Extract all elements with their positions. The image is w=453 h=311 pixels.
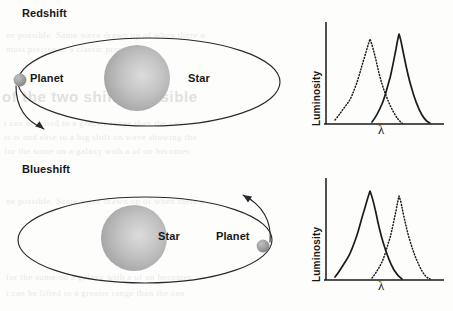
spectrum-curve-dotted (372, 196, 430, 279)
x-axis-label: λ (378, 122, 384, 138)
spectrum-curve-dotted (335, 39, 402, 123)
blueshift-orbit-svg (0, 178, 295, 303)
spectrum-curve-solid (335, 191, 402, 279)
star-body (104, 45, 170, 111)
redshift-orbit-diagram: Planet Star (0, 22, 295, 147)
planet-label: Planet (216, 230, 250, 242)
planet-body (257, 240, 270, 253)
blueshift-orbit-diagram: Star Planet (0, 178, 295, 303)
blueshift-spectrum-plot: Luminosity λ (300, 174, 450, 302)
redshift-heading: Redshift (22, 7, 67, 19)
star-label: Star (158, 230, 180, 242)
redshift-spectrum-plot: Luminosity λ (300, 18, 450, 146)
redshift-orbit-svg (0, 22, 295, 147)
planet-label: Planet (30, 72, 64, 84)
x-axis-label: λ (378, 278, 384, 294)
blueshift-heading: Blueshift (22, 163, 70, 175)
planet-body (14, 74, 27, 87)
star-label: Star (188, 72, 210, 84)
ghost-line: for the some on a galaxy with a of on be… (4, 146, 190, 156)
orbit-direction-arrow (16, 86, 44, 129)
